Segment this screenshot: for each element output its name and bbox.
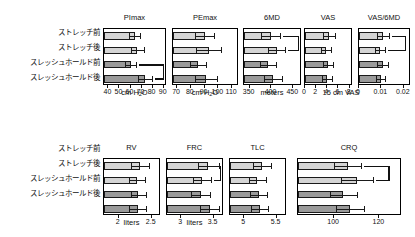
x-tick-label: 120 bbox=[373, 218, 385, 226]
panel-title-crq: CRQ bbox=[297, 143, 401, 152]
figure-panel-grid: ストレッチ前 ストレッチ後 スレッシュホールド前 スレッシュホールド後 ストレッ… bbox=[0, 0, 415, 237]
plot-area-crq bbox=[297, 158, 401, 215]
significance-bracket-crq-1 bbox=[298, 159, 402, 216]
x-axis-crq: 100120 bbox=[297, 215, 401, 229]
x-tick-label: 100 bbox=[327, 218, 339, 226]
panel-crq: CRQ100120 bbox=[0, 0, 415, 237]
